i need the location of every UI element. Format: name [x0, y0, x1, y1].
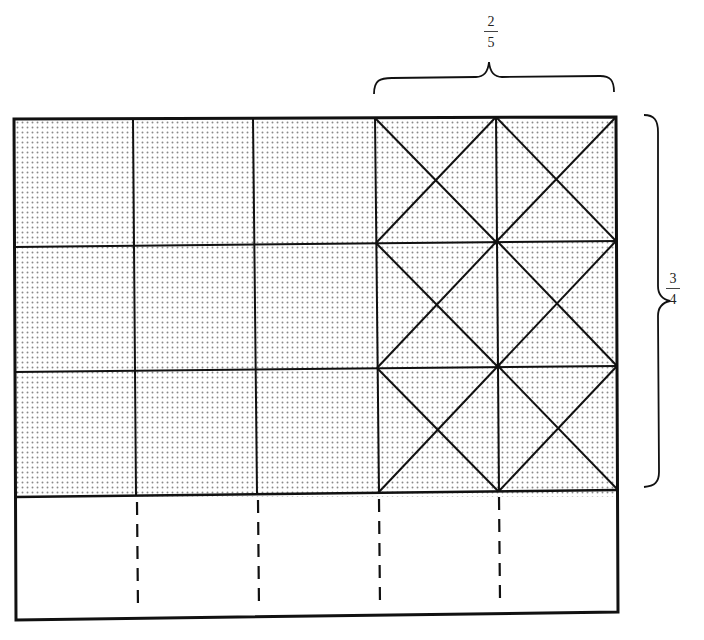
- top-fraction-bar: [484, 31, 498, 32]
- shaded-three-quarters-region: [14, 119, 616, 497]
- top-brace: [374, 62, 614, 94]
- right-fraction-denominator: 4: [670, 292, 677, 307]
- right-fraction-label: 3 4: [666, 271, 680, 307]
- right-fraction-bar: [666, 288, 680, 289]
- fraction-area-model-diagram: [0, 0, 704, 640]
- top-fraction-numerator: 2: [488, 14, 495, 29]
- dashed-column-dividers: [137, 497, 500, 610]
- top-fraction-label: 2 5: [484, 14, 498, 50]
- right-fraction-numerator: 3: [670, 271, 677, 286]
- top-fraction-denominator: 5: [488, 35, 495, 50]
